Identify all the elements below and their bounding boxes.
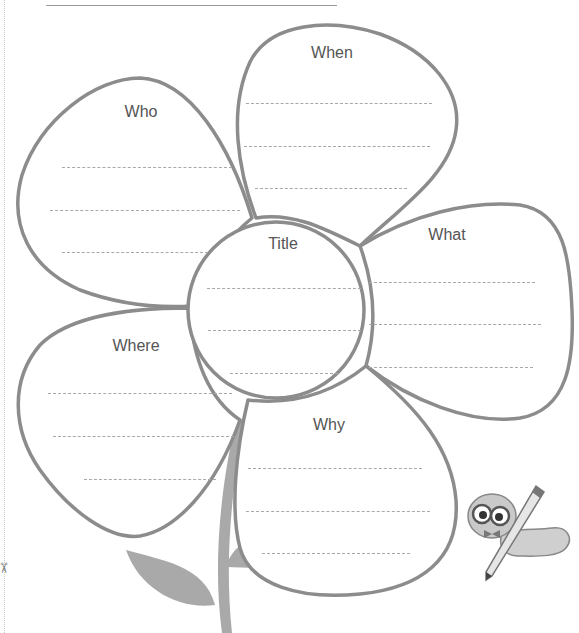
center-title-write-line[interactable] xyxy=(207,288,361,289)
petal-where-write-line[interactable] xyxy=(84,479,216,480)
center-title-write-line[interactable] xyxy=(230,373,338,374)
petal-who-write-line[interactable] xyxy=(50,210,240,211)
petal-when-write-line[interactable] xyxy=(244,146,430,147)
petal-where-write-line[interactable] xyxy=(53,436,239,437)
petal-where-label: Where xyxy=(112,337,159,355)
petal-who-write-line[interactable] xyxy=(62,252,208,253)
center-title-write-line[interactable] xyxy=(208,330,361,331)
center-title-label: Title xyxy=(268,235,298,253)
petal-where-write-line[interactable] xyxy=(48,393,232,394)
petal-why-write-line[interactable] xyxy=(246,511,430,512)
leaf-left xyxy=(126,550,215,606)
petal-who-label: Who xyxy=(125,103,158,121)
petal-when-write-line[interactable] xyxy=(246,103,432,104)
petal-when-label: When xyxy=(311,44,353,62)
petal-what-label: What xyxy=(428,226,465,244)
petal-why-write-line[interactable] xyxy=(262,553,410,554)
petal-what-write-line[interactable] xyxy=(369,282,535,283)
bookworm-mascot-icon xyxy=(462,478,574,583)
petal-what-write-line[interactable] xyxy=(369,367,533,368)
petal-when-write-line[interactable] xyxy=(255,188,407,189)
petal-what-write-line[interactable] xyxy=(369,324,541,325)
petal-why-write-line[interactable] xyxy=(248,468,422,469)
petal-who-write-line[interactable] xyxy=(62,167,232,168)
petal-why-label: Why xyxy=(313,416,345,434)
